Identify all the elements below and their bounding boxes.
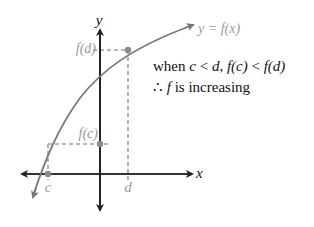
point-d-fd <box>125 47 131 53</box>
c-label: c <box>45 179 52 195</box>
f-d-label: f(d) <box>76 41 97 57</box>
function-curve <box>33 25 193 196</box>
statement-less-than-2: < <box>248 58 264 74</box>
statement-line-1: when c < d, f(c) < f(d) <box>153 58 285 75</box>
guide-lines <box>48 50 128 180</box>
statement-fc: f(c) <box>227 58 248 74</box>
statement-c: c <box>189 58 196 74</box>
statement-line-2: ∴ f is increasing <box>153 78 250 96</box>
point-fc-on-axis <box>97 141 103 147</box>
increasing-function-diagram: f(d) f(c) c d y x y = f(x) <box>0 0 314 227</box>
d-label: d <box>124 179 132 195</box>
x-axis-label: x <box>195 165 203 181</box>
therefore-icon: ∴ <box>153 79 163 95</box>
curve-label: y = f(x) <box>196 21 240 37</box>
f-c-label: f(c) <box>79 126 99 142</box>
y-axis-label: y <box>94 12 103 28</box>
point-c-on-axis <box>45 171 51 177</box>
statement-comma: , <box>219 58 227 74</box>
statement-when: when <box>153 58 189 74</box>
curve-upper-arrow <box>185 25 193 28</box>
statement-conclusion: is increasing <box>171 79 250 95</box>
statement-fd: f(d) <box>264 58 286 74</box>
statement-less-than: < <box>196 58 212 74</box>
